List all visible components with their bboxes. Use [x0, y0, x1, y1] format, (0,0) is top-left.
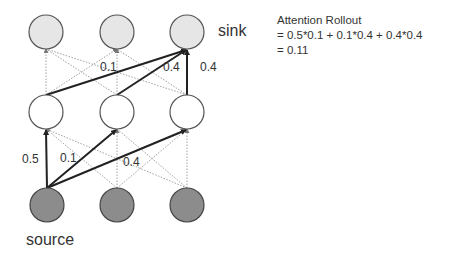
- source-node-2: [100, 188, 134, 222]
- top-row-nodes: [29, 15, 204, 49]
- edge-label-upper-a: 0.1: [100, 60, 117, 74]
- middle-node-1: [29, 95, 63, 129]
- source-label: source: [26, 231, 74, 249]
- sink-node-1: [29, 15, 63, 49]
- edge-label-lower-b: 0.1: [60, 151, 77, 165]
- rollout-formula: Attention Rollout = 0.5*0.1 + 0.1*0.4 + …: [277, 13, 422, 58]
- sink-node-3: [170, 15, 204, 49]
- edge-label-lower-a: 0.5: [22, 152, 39, 166]
- rollout-result: = 0.11: [277, 43, 422, 58]
- middle-node-3: [170, 95, 204, 129]
- rollout-title: Attention Rollout: [277, 13, 422, 28]
- edge-label-upper-b: 0.4: [163, 60, 180, 74]
- sink-label: sink: [218, 22, 246, 40]
- rollout-expression: = 0.5*0.1 + 0.1*0.4 + 0.4*0.4: [277, 28, 422, 43]
- middle-node-2: [100, 95, 134, 129]
- middle-row-nodes: [29, 95, 204, 129]
- source-node-3: [170, 188, 204, 222]
- sink-node-2: [100, 15, 134, 49]
- edge-label-lower-c: 0.4: [123, 155, 140, 169]
- bottom-row-nodes: [30, 188, 204, 222]
- edge-label-upper-c: 0.4: [200, 60, 217, 74]
- source-node-1: [30, 188, 64, 222]
